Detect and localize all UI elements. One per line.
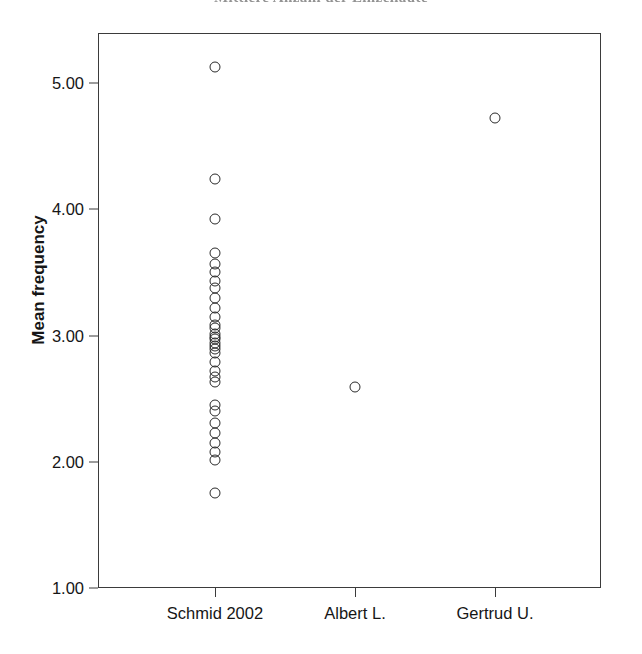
x-tick-mark (495, 588, 496, 597)
data-point (210, 61, 221, 72)
plot-area (98, 33, 601, 588)
data-point (210, 455, 221, 466)
data-point (210, 214, 221, 225)
x-tick-mark (355, 588, 356, 597)
x-tick-label-2: Albert L. (324, 604, 385, 623)
data-point (210, 173, 221, 184)
data-point (210, 488, 221, 499)
x-tick-label-3: Gertrud U. (456, 604, 533, 623)
data-point (350, 382, 361, 393)
data-point (490, 113, 501, 124)
x-tick-label-1: Schmid 2002 (167, 604, 263, 623)
x-tick-mark (215, 588, 216, 597)
data-point (210, 406, 221, 417)
data-point (210, 377, 221, 388)
